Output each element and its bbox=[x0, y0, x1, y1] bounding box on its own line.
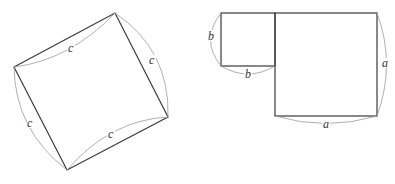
label-c-right: c bbox=[149, 53, 155, 67]
large-square-a bbox=[275, 13, 377, 116]
label-c-left: c bbox=[27, 116, 33, 130]
label-b-bottom: b bbox=[245, 67, 251, 81]
label-a-right: a bbox=[382, 56, 388, 70]
label-a-bottom: a bbox=[323, 117, 329, 131]
tilted-square-c: c c c c bbox=[14, 13, 168, 170]
label-c-top: c bbox=[68, 41, 74, 55]
small-square-b bbox=[221, 13, 275, 66]
label-b-left: b bbox=[208, 29, 214, 43]
diagram-canvas: c c c c b b a a bbox=[0, 0, 395, 184]
label-c-bottom: c bbox=[108, 127, 114, 141]
squares-a-b: b b a a bbox=[207, 13, 389, 131]
